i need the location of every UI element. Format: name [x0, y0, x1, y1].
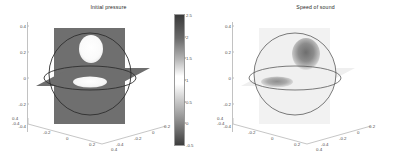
y-tick-1: 0.2 — [20, 50, 26, 55]
svg-text:0.4: 0.4 — [316, 147, 323, 152]
cbar-tick-1: 2 — [186, 34, 188, 39]
axes-3d-speed-of-sound: 0.4 0.2 0 -0.2 -0.4 -0.2 0 0.2 0.4 -0.4 … — [233, 16, 363, 146]
y-tick-0: 0.4 — [225, 24, 231, 29]
colorbar-initial-pressure[interactable]: 2.5 2 1.5 1 0.5 0 -0.5 — [174, 14, 185, 146]
cbar-tickline-4 — [184, 101, 186, 102]
y-tick-2: 0 — [24, 76, 26, 81]
y-tickmark-1 — [232, 52, 234, 53]
subplot-title-speed-of-sound: Speed of sound — [209, 4, 418, 10]
svg-text:0: 0 — [357, 130, 360, 135]
inclusion-blob-lower — [261, 77, 293, 88]
y-tick-3: -0.2 — [223, 102, 231, 107]
floor-axes: -0.2 0 0.2 0.4 -0.4 -0.2 0 0.2 — [211, 120, 375, 159]
y-tick-2: 0 — [229, 76, 231, 81]
svg-text:-0.2: -0.2 — [248, 130, 256, 135]
subplot-speed-of-sound: Speed of sound — [209, 0, 418, 159]
corner-tick-bottom: -0.4 — [217, 121, 225, 126]
y-tickmark-1 — [27, 52, 29, 53]
svg-text:-0.4: -0.4 — [321, 142, 329, 147]
cbar-tickline-3 — [184, 80, 186, 81]
colorbar-gradient-initial-pressure — [175, 15, 184, 145]
svg-text:0.2: 0.2 — [89, 142, 96, 147]
y-tick-1: 0.2 — [225, 50, 231, 55]
floor-axes: -0.2 0 0.2 0.4 -0.4 -0.2 0 0.2 — [6, 120, 170, 159]
corner-tick-bottom: -0.4 — [12, 121, 20, 126]
cbar-tickline-1 — [184, 36, 186, 37]
corner-tick-group: 0.4 -0.4 — [12, 116, 20, 126]
corner-tick-group: 0.4 -0.4 — [217, 116, 225, 126]
source-blob-upper — [79, 35, 103, 63]
y-tickmark-2 — [27, 78, 29, 79]
figure-canvas: Initial pressure — [0, 0, 418, 159]
cbar-tick-3: 1 — [186, 78, 188, 83]
y-tick-0: 0.4 — [20, 24, 26, 29]
y-tickmark-3 — [27, 104, 29, 105]
y-tickmark-3 — [232, 104, 234, 105]
cbar-tickline-5 — [184, 123, 186, 124]
svg-text:-0.4: -0.4 — [116, 142, 124, 147]
inclusion-blob-upper — [292, 38, 320, 70]
svg-text:-0.2: -0.2 — [134, 136, 142, 141]
svg-text:0: 0 — [66, 136, 69, 141]
svg-text:0.2: 0.2 — [164, 124, 171, 129]
axes-3d-initial-pressure: 0.4 0.2 0 -0.2 -0.4 -0.2 0 0.2 — [28, 16, 158, 146]
svg-text:0.2: 0.2 — [369, 124, 376, 129]
cbar-tick-6: -0.5 — [186, 143, 193, 148]
cbar-tick-2: 1.5 — [186, 56, 192, 61]
svg-text:-0.2: -0.2 — [43, 130, 51, 135]
svg-text:0.4: 0.4 — [111, 147, 118, 152]
svg-text:-0.2: -0.2 — [339, 136, 347, 141]
y-tick-3: -0.2 — [18, 102, 26, 107]
cbar-tick-5: 0 — [186, 121, 188, 126]
y-tickmark-0 — [232, 26, 234, 27]
svg-text:0: 0 — [152, 130, 155, 135]
cbar-tick-0: 2.5 — [186, 13, 192, 18]
cbar-tickline-2 — [184, 58, 186, 59]
subplot-initial-pressure: Initial pressure — [0, 0, 209, 159]
svg-text:0.2: 0.2 — [294, 142, 301, 147]
svg-text:0: 0 — [271, 136, 274, 141]
cbar-tick-4: 0.5 — [186, 99, 192, 104]
subplot-title-initial-pressure: Initial pressure — [0, 4, 213, 10]
source-blob-lower — [73, 77, 107, 88]
y-tickmark-2 — [232, 78, 234, 79]
y-tickmark-0 — [27, 26, 29, 27]
